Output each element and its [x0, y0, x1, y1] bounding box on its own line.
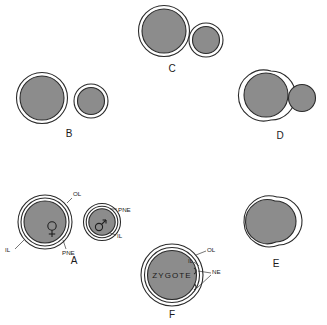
panel-e-merged-cytoplasm	[246, 200, 296, 244]
label-il-a-male: IL	[117, 232, 123, 239]
label-pne-a-male: PNE	[118, 206, 131, 213]
panel-c-large-inner-layer	[142, 9, 186, 53]
label-ol-f: OL	[207, 246, 216, 253]
zygote-label: ZYGOTE	[152, 271, 192, 280]
panel-letter-f: F	[169, 309, 175, 320]
label-il-f: IL	[188, 257, 194, 264]
fertilization-diagram: C B D E	[0, 0, 327, 325]
panel-letter-d: D	[276, 130, 283, 141]
figure-canvas: C B D E	[0, 0, 327, 325]
panel-a-male-pronuclear-envelope	[89, 209, 115, 235]
label-ol-a: OL	[73, 190, 82, 197]
panel-b-small-inner-layer	[78, 88, 105, 115]
panel-letter-c: C	[168, 63, 175, 74]
panel-d-large-inner-layer	[244, 73, 288, 117]
panel-letter-b: B	[66, 128, 73, 139]
panel-b-large-inner-layer	[20, 76, 64, 120]
panel-a-female-pronuclear-envelope	[24, 201, 66, 243]
panel-d-small-inner-layer	[289, 85, 316, 112]
panel-letter-e: E	[273, 258, 280, 269]
label-ne-f: NE	[212, 268, 221, 275]
panel-c-small-inner-layer	[193, 27, 220, 54]
panel-letter-a: A	[71, 255, 78, 266]
label-il-a: IL	[5, 246, 11, 253]
